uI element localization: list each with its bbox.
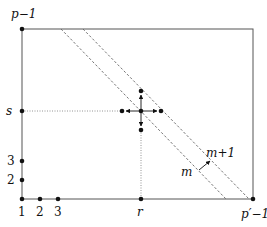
- dot-bottom-right: [251, 197, 256, 202]
- lattice-diagram: p−1 s 3 2 1 2 3 r p′−1 m m+1: [0, 0, 267, 227]
- dot-top-left: [20, 27, 25, 32]
- dashed-line-m: [61, 29, 226, 199]
- lattice-dots: [20, 27, 256, 202]
- dot-right: [159, 109, 164, 114]
- label-x2: 2: [36, 205, 44, 219]
- dot-down: [139, 128, 144, 133]
- dot-left: [120, 109, 125, 114]
- dashed-line-m-plus-1: [83, 29, 249, 199]
- label-p-minus-1: p−1: [11, 7, 36, 21]
- dot-x3: [56, 197, 61, 202]
- boundary-rectangle: [22, 29, 253, 199]
- label-p-prime-minus-1: p′−1: [241, 207, 267, 221]
- dot-y2: [20, 178, 25, 183]
- dot-center: [139, 109, 144, 114]
- dot-x2: [38, 197, 43, 202]
- dot-s: [20, 109, 25, 114]
- label-s: s: [6, 104, 12, 118]
- label-m-plus-1: m+1: [206, 146, 235, 160]
- label-m: m: [181, 165, 192, 179]
- dot-y3: [20, 159, 25, 164]
- label-r: r: [137, 205, 144, 219]
- arrow-m-to-m-plus-1: [199, 161, 210, 170]
- label-y2: 2: [7, 173, 15, 187]
- label-y3: 3: [7, 154, 15, 168]
- label-x3: 3: [54, 205, 62, 219]
- label-x1: 1: [18, 205, 26, 219]
- dot-up: [139, 89, 144, 94]
- dot-origin: [20, 197, 25, 202]
- dot-r: [139, 197, 144, 202]
